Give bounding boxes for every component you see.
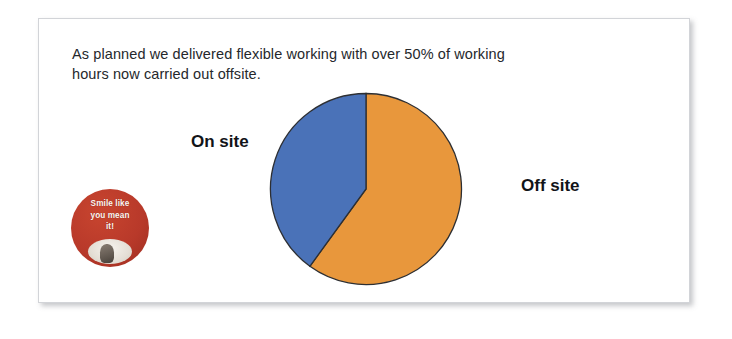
slide-canvas: As planned we delivered flexible working…: [38, 18, 690, 303]
pie-label-off-site: Off site: [521, 176, 580, 196]
smile-badge: Smile like you mean it!: [71, 189, 149, 267]
smile-badge-text: Smile like you mean it!: [71, 198, 149, 233]
slide-heading: As planned we delivered flexible working…: [72, 44, 632, 84]
smile-badge-photo: [88, 239, 132, 264]
smile-badge-figure: [100, 244, 114, 263]
pie-chart-svg: [269, 92, 463, 286]
pie-label-on-site: On site: [191, 132, 249, 152]
pie-chart: [269, 92, 463, 286]
